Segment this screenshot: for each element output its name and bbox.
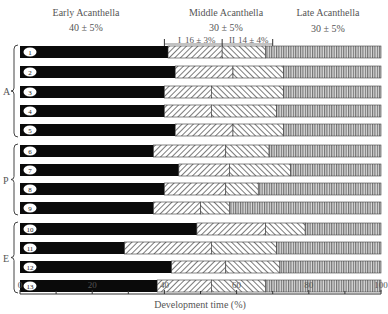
phase-label-late: Late Acanthella — [296, 7, 360, 18]
bar-middle-2-8 — [226, 183, 258, 195]
bar-middle-2-10 — [265, 223, 305, 235]
subphase-label-2: II — [229, 35, 235, 45]
bar-row-3: 3 — [20, 86, 381, 98]
row-label-10: 10 — [27, 226, 35, 234]
bar-middle-1-12 — [172, 261, 226, 273]
x-tick-label-100: 100 — [374, 280, 388, 290]
bar-late-4 — [276, 105, 381, 117]
bar-late-1 — [265, 46, 381, 58]
bar-row-6: 6 — [20, 145, 381, 157]
bar-early-1 — [20, 46, 168, 58]
bar-middle-1-10 — [197, 223, 266, 235]
bar-middle-2-11 — [211, 242, 276, 254]
subphase-label-1: I — [178, 35, 181, 45]
row-label-4: 4 — [28, 108, 32, 116]
bar-late-2 — [284, 66, 381, 78]
phase-value-early: 40 ± 5% — [69, 22, 103, 33]
bar-middle-2-2 — [233, 66, 284, 78]
bar-row-1: 1 — [20, 46, 381, 58]
row-label-12: 12 — [27, 264, 35, 272]
development-chart: Early Acanthella 40 ± 5% Middle Acanthel… — [0, 0, 388, 314]
phase-value-late: 30 ± 5% — [311, 23, 345, 34]
bar-middle-1-3 — [164, 86, 211, 98]
bar-early-5 — [20, 124, 175, 136]
bar-early-12 — [20, 261, 172, 273]
subphase-value-1: 16 ± 3% — [185, 35, 216, 45]
bar-late-13 — [265, 280, 381, 292]
row-label-5: 5 — [28, 127, 32, 135]
bar-middle-2-4 — [211, 105, 276, 117]
bar-row-9: 9 — [20, 202, 381, 214]
bar-middle-2-1 — [222, 46, 265, 58]
bar-middle-1-5 — [175, 124, 233, 136]
row-label-6: 6 — [28, 148, 32, 156]
bar-late-6 — [269, 145, 381, 157]
bar-middle-2-6 — [226, 145, 269, 157]
subphase-value-2: 14 ± 4% — [238, 35, 269, 45]
bar-row-7: 7 — [20, 164, 381, 176]
bar-middle-1-2 — [175, 66, 233, 78]
bar-middle-1-1 — [168, 46, 222, 58]
bar-row-10: 10 — [20, 223, 381, 235]
bar-row-8: 8 — [20, 183, 381, 195]
bar-middle-1-9 — [154, 202, 201, 214]
bar-late-7 — [291, 164, 381, 176]
bar-early-7 — [20, 164, 179, 176]
bar-late-5 — [284, 124, 381, 136]
bar-middle-1-6 — [154, 145, 226, 157]
bar-middle-2-9 — [201, 202, 230, 214]
group-label-P: P — [3, 175, 9, 186]
bar-early-2 — [20, 66, 175, 78]
x-tick-label-80: 80 — [304, 280, 314, 290]
bar-row-13: 13 — [20, 280, 381, 292]
row-label-13: 13 — [27, 283, 35, 291]
bar-early-8 — [20, 183, 164, 195]
row-label-7: 7 — [28, 167, 32, 175]
row-label-11: 11 — [27, 245, 34, 253]
bar-early-4 — [20, 105, 164, 117]
bar-early-3 — [20, 86, 164, 98]
x-tick-label-40: 40 — [160, 280, 170, 290]
x-tick-label-0: 0 — [18, 280, 23, 290]
bar-middle-1-7 — [179, 164, 230, 176]
row-label-8: 8 — [28, 186, 32, 194]
bar-middle-1-8 — [164, 183, 225, 195]
row-label-2: 2 — [28, 69, 32, 77]
bar-row-5: 5 — [20, 124, 381, 136]
bar-late-9 — [229, 202, 381, 214]
bar-row-4: 4 — [20, 105, 381, 117]
group-label-E: E — [3, 253, 9, 264]
bar-middle-2-3 — [211, 86, 283, 98]
bar-middle-2-5 — [233, 124, 284, 136]
phase-label-middle: Middle Acanthella — [189, 7, 264, 18]
bar-early-9 — [20, 202, 154, 214]
bar-row-2: 2 — [20, 66, 381, 78]
bar-middle-1-4 — [164, 105, 211, 117]
row-label-3: 3 — [28, 89, 32, 97]
bar-middle-2-7 — [229, 164, 290, 176]
phase-label-early: Early Acanthella — [53, 7, 120, 18]
group-bracket-P — [11, 144, 18, 215]
x-axis-label: Development time (%) — [154, 299, 246, 311]
bar-early-6 — [20, 145, 154, 157]
bar-late-10 — [305, 223, 381, 235]
bar-late-12 — [280, 261, 381, 273]
group-label-A: A — [3, 86, 11, 97]
bar-late-3 — [284, 86, 381, 98]
bar-late-8 — [258, 183, 381, 195]
bar-early-10 — [20, 223, 197, 235]
phase-value-middle: 30 ± 5% — [209, 22, 243, 33]
row-label-9: 9 — [28, 205, 32, 213]
bar-middle-1-11 — [125, 242, 212, 254]
x-tick-label-60: 60 — [232, 280, 242, 290]
x-tick-label-20: 20 — [88, 280, 98, 290]
row-label-1: 1 — [28, 49, 32, 57]
bar-row-11: 11 — [20, 242, 381, 254]
bar-row-12: 12 — [20, 261, 381, 273]
group-bracket-A — [11, 45, 18, 137]
bar-late-11 — [276, 242, 381, 254]
bar-middle-2-12 — [226, 261, 280, 273]
